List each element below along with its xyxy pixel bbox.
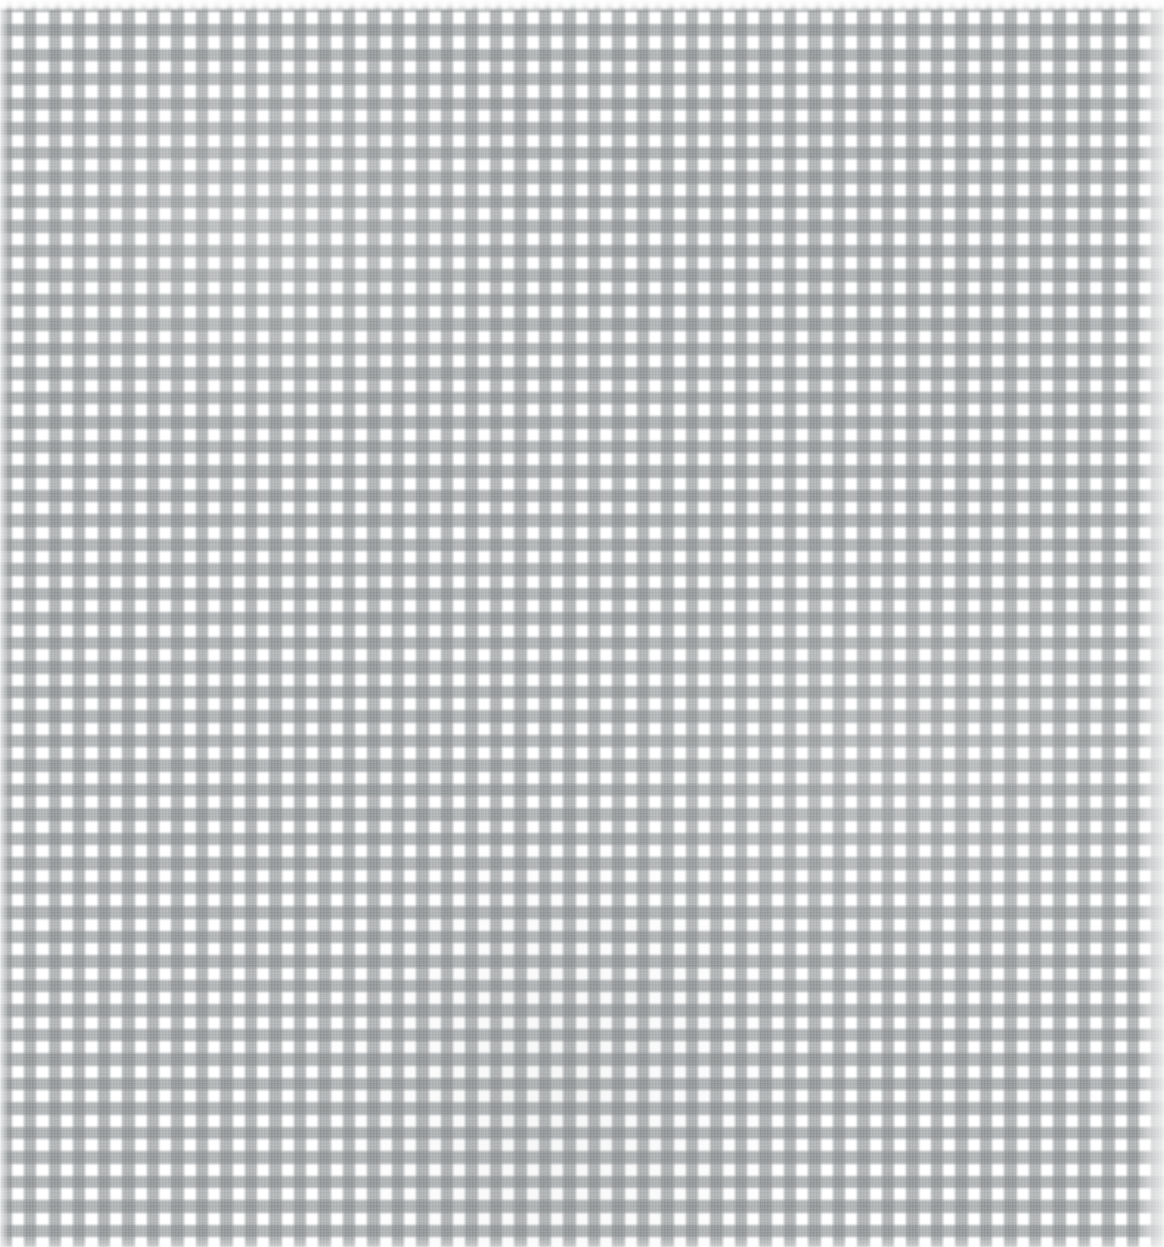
weft-stripes-layer (0, 0, 1164, 1247)
fabric-swatch (0, 0, 1164, 1247)
gingham-weave (0, 0, 1164, 1247)
